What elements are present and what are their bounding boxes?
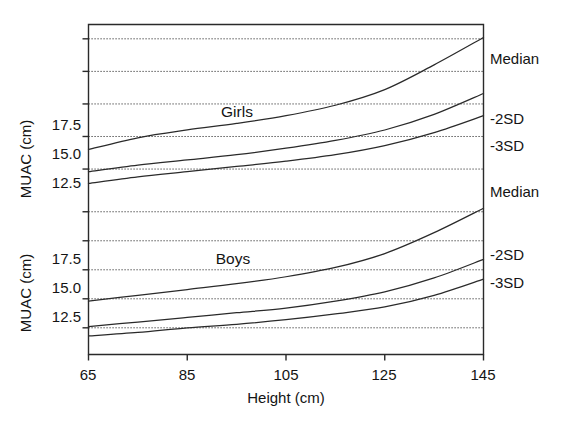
y-tick-label-boys-12-5: 12.5 (52, 308, 81, 325)
x-axis-title: Height (cm) (247, 389, 325, 406)
curve-label-girls-median: Median (490, 50, 539, 67)
curve-boys-median (89, 208, 484, 301)
plot-frame (89, 25, 484, 355)
panel-label-girls: Girls (221, 103, 253, 120)
boys-panel (83, 208, 484, 336)
y-axis-title-girls: MUAC (cm) (17, 120, 34, 198)
curve-girls-3sd (89, 116, 484, 184)
curve-label-girls-3sd: -3SD (490, 137, 524, 154)
x-tick-label-105: 105 (273, 366, 298, 383)
chart-svg: 17.5 15.0 12.5 17.5 15.0 12.5 MUAC (cm) … (0, 0, 562, 426)
boys-tickmarks (83, 212, 89, 328)
girls-panel (83, 38, 484, 184)
girls-gridlines (89, 39, 484, 169)
x-tick-label-85: 85 (179, 366, 196, 383)
y-tick-label-boys-17-5: 17.5 (52, 250, 81, 267)
boys-curves (89, 208, 484, 336)
curve-girls-2sd (89, 94, 484, 172)
x-tick-label-65: 65 (80, 366, 97, 383)
curve-label-girls-2sd: -2SD (490, 110, 524, 127)
curve-label-boys-3sd: -3SD (490, 274, 524, 291)
y-tick-label-girls-17-5: 17.5 (52, 116, 81, 133)
y-axis-title-boys: MUAC (cm) (17, 254, 34, 332)
y-tick-label-girls-12-5: 12.5 (52, 174, 81, 191)
x-axis-tickmarks (89, 355, 484, 361)
curve-label-boys-2sd: -2SD (490, 246, 524, 263)
y-tick-label-girls-15-0: 15.0 (52, 145, 81, 162)
curve-girls-median (89, 38, 484, 150)
chart-figure: 17.5 15.0 12.5 17.5 15.0 12.5 MUAC (cm) … (0, 0, 562, 426)
girls-tickmarks (83, 39, 89, 169)
curve-boys-2sd (89, 259, 484, 326)
curve-label-boys-median: Median (490, 183, 539, 200)
x-tick-label-125: 125 (371, 366, 396, 383)
x-tick-label-145: 145 (470, 366, 495, 383)
boys-gridlines (89, 212, 484, 328)
panel-label-boys: Boys (216, 250, 251, 267)
girls-curves (89, 38, 484, 184)
y-tick-label-boys-15-0: 15.0 (52, 279, 81, 296)
